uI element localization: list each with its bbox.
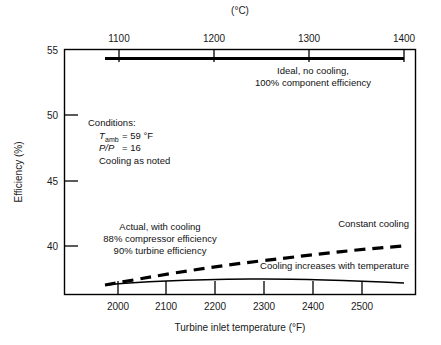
left-tick-label-45: 45	[47, 176, 59, 187]
left-axis-ticks	[65, 115, 79, 246]
left-tick-label-55: 55	[47, 45, 59, 56]
chart-svg: (°C) 1100 1200 1300 1400 55 50 45 40 200…	[0, 0, 441, 345]
annotation-actual-line-2: 88% compressor efficiency	[103, 233, 217, 244]
annotation-conditions-pressure-ratio: P/P = 16	[99, 142, 141, 153]
left-tick-label-40: 40	[47, 241, 59, 252]
left-tick-label-50: 50	[47, 110, 59, 121]
top-axis-title: (°C)	[231, 5, 249, 16]
annotation-cooling-increases: Cooling increases with temperature	[260, 260, 409, 271]
bottom-tick-label-2500: 2500	[351, 301, 374, 312]
annotation-conditions-title: Conditions:	[88, 117, 136, 128]
top-axis-ticks	[119, 50, 404, 63]
efficiency-vs-turbine-inlet-temperature-chart: (°C) 1100 1200 1300 1400 55 50 45 40 200…	[0, 0, 441, 345]
conditions-tamb-value: = 59 °F	[122, 130, 153, 141]
bottom-tick-label-2200: 2200	[204, 301, 227, 312]
conditions-pp-value: = 16	[122, 142, 141, 153]
conditions-pp-variable: P/P	[99, 142, 115, 153]
annotation-constant-cooling: Constant cooling	[338, 218, 409, 229]
series-cooling-increases	[105, 279, 404, 285]
x-axis-title: Turbine inlet temperature (°F)	[175, 322, 306, 333]
bottom-tick-label-2300: 2300	[253, 301, 276, 312]
annotation-ideal-line-2: 100% component efficiency	[255, 77, 371, 88]
top-tick-label-1100: 1100	[108, 33, 130, 44]
y-axis-title: Efficiency (%)	[13, 142, 24, 203]
annotation-actual-line-1: Actual, with cooling	[119, 221, 200, 232]
bottom-axis-ticks	[118, 281, 362, 295]
bottom-tick-label-2400: 2400	[302, 301, 325, 312]
top-tick-label-1400: 1400	[393, 33, 416, 44]
annotation-actual-line-3: 90% turbine efficiency	[114, 245, 207, 256]
top-tick-label-1300: 1300	[298, 33, 321, 44]
bottom-tick-label-2000: 2000	[107, 301, 130, 312]
bottom-tick-label-2100: 2100	[155, 301, 178, 312]
top-tick-label-1200: 1200	[203, 33, 226, 44]
annotation-conditions-cooling: Cooling as noted	[99, 155, 170, 166]
annotation-ideal-line-1: Ideal, no cooling,	[277, 65, 349, 76]
